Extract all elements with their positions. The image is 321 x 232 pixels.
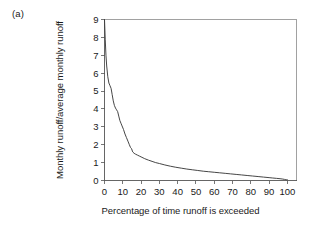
y-tick-label: 9 xyxy=(93,14,98,25)
x-tick-label: 50 xyxy=(191,186,202,197)
plot-frame xyxy=(105,20,297,181)
y-tick-label: 1 xyxy=(93,157,98,168)
x-axis-label: Percentage of time runoff is exceeded xyxy=(62,205,260,216)
x-tick-label: 30 xyxy=(154,186,165,197)
figure-panel-a: (a) Monthly runoff/average monthly runof… xyxy=(0,0,321,232)
y-tick-label: 2 xyxy=(93,139,98,150)
y-tick-label: 0 xyxy=(93,175,98,186)
x-tick-label: 0 xyxy=(102,186,107,197)
data-series-group xyxy=(105,20,288,180)
x-tick-label: 80 xyxy=(245,186,256,197)
y-axis-label: Monthly runoff/average monthly runoff xyxy=(54,21,65,179)
panel-label: (a) xyxy=(12,8,24,19)
flow-duration-curve-plot: 0102030405060708090100 0123456789 xyxy=(0,0,321,232)
y-tick-label: 3 xyxy=(93,121,98,132)
x-tick-label: 60 xyxy=(209,186,220,197)
x-tick-label: 40 xyxy=(172,186,183,197)
y-tick-label: 6 xyxy=(93,68,98,79)
y-tick-label: 4 xyxy=(93,103,98,114)
y-axis-ticks: 0123456789 xyxy=(93,14,104,186)
x-tick-label: 20 xyxy=(136,186,147,197)
data-series-line xyxy=(105,20,288,180)
x-axis-ticks: 0102030405060708090100 xyxy=(102,181,295,197)
x-axis-label-container: Percentage of time runoff is exceeded xyxy=(0,205,321,216)
x-tick-label: 70 xyxy=(227,186,238,197)
y-tick-label: 5 xyxy=(93,85,98,96)
y-tick-label: 8 xyxy=(93,32,98,43)
y-axis-label-container: Monthly runoff/average monthly runoff xyxy=(50,14,68,186)
x-tick-label: 90 xyxy=(264,186,275,197)
x-tick-label: 10 xyxy=(117,186,128,197)
x-tick-label: 100 xyxy=(279,186,295,197)
y-tick-label: 7 xyxy=(93,50,98,61)
